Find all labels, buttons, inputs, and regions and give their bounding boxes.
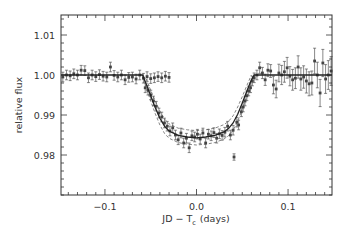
- data-point: [212, 131, 215, 134]
- x-tick-label: 0.0: [189, 201, 204, 212]
- data-point: [202, 132, 205, 135]
- data-point: [171, 126, 174, 129]
- data-point: [105, 76, 108, 79]
- data-point: [310, 82, 313, 85]
- data-point: [258, 66, 261, 69]
- data-points-with-errorbars: [61, 48, 332, 160]
- data-point: [144, 86, 147, 89]
- data-point: [302, 76, 305, 79]
- data-point: [116, 76, 119, 79]
- data-point: [135, 78, 138, 81]
- data-point: [308, 82, 311, 85]
- data-point: [267, 69, 270, 72]
- data-point: [160, 116, 163, 119]
- y-tick-label: 0.99: [34, 110, 55, 121]
- data-point: [277, 72, 280, 75]
- model-line: [61, 75, 332, 138]
- data-point: [324, 78, 327, 81]
- data-point: [299, 78, 302, 81]
- y-tick-label: 1.00: [34, 70, 55, 81]
- data-point: [305, 80, 308, 83]
- data-point: [237, 124, 240, 127]
- y-tick-label: 0.98: [34, 150, 55, 161]
- data-point: [321, 62, 324, 65]
- data-point: [275, 88, 278, 91]
- data-point: [180, 132, 183, 135]
- data-point: [153, 76, 156, 79]
- data-point: [226, 125, 229, 128]
- data-point: [294, 77, 297, 80]
- data-point: [149, 77, 152, 80]
- x-tick-label: −0.1: [93, 201, 116, 212]
- data-point: [164, 75, 167, 78]
- x-axis-label-main: JD − T: [161, 213, 192, 224]
- data-point: [272, 84, 275, 87]
- model-curve: [61, 75, 332, 138]
- data-point: [188, 146, 191, 149]
- data-point: [319, 92, 322, 95]
- axis-ticks: [61, 15, 332, 195]
- data-point: [235, 121, 238, 124]
- data-point: [229, 134, 232, 137]
- data-point: [233, 156, 236, 159]
- data-point: [109, 66, 112, 69]
- data-point: [87, 76, 90, 79]
- envelope-line: [142, 75, 252, 131]
- x-axis-label-units: (days): [200, 213, 230, 224]
- data-point: [83, 69, 86, 72]
- data-point: [283, 70, 286, 73]
- data-point: [80, 69, 83, 72]
- data-point: [131, 76, 134, 79]
- y-axis-tick-labels: 0.980.991.001.01: [34, 30, 55, 161]
- data-point: [269, 70, 272, 73]
- data-point: [313, 60, 316, 63]
- data-point: [297, 66, 300, 69]
- x-axis-label-subscript: c: [192, 219, 196, 227]
- data-point: [291, 78, 294, 81]
- y-axis-label: relative flux: [13, 76, 24, 133]
- data-point: [249, 86, 252, 89]
- data-point: [168, 76, 171, 79]
- data-point: [221, 134, 224, 137]
- data-point: [157, 75, 160, 78]
- data-point: [146, 75, 149, 78]
- data-point: [232, 129, 235, 132]
- x-axis-tick-labels: −0.10.00.1: [93, 201, 295, 212]
- data-point: [264, 78, 267, 81]
- data-point: [286, 66, 289, 69]
- data-point: [261, 72, 264, 75]
- y-tick-label: 1.01: [34, 30, 55, 41]
- data-point: [127, 76, 130, 79]
- data-point: [160, 76, 163, 79]
- x-axis-label: JD − Tc(days): [161, 213, 229, 227]
- transit-light-curve-chart: 0.980.991.001.01 −0.10.00.1 relative flu…: [0, 0, 350, 247]
- x-tick-label: 0.1: [280, 201, 295, 212]
- data-point: [177, 138, 180, 141]
- data-point: [182, 142, 185, 145]
- data-point: [207, 133, 210, 136]
- data-point: [204, 142, 207, 145]
- data-point: [215, 137, 218, 140]
- data-point: [196, 133, 199, 136]
- data-point: [124, 78, 127, 81]
- data-point: [61, 76, 64, 79]
- plot-frame: [61, 15, 332, 195]
